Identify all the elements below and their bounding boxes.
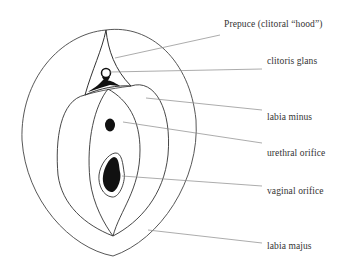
labia-minus-right	[113, 85, 169, 236]
labia-majus-outline	[22, 29, 196, 256]
urethral-orifice-shape	[105, 119, 115, 132]
vulva-anatomy-drawing	[0, 0, 354, 272]
label-prepuce: Prepuce (clitoral “hood”)	[224, 19, 323, 29]
vaginal-orifice-shape	[103, 157, 121, 192]
label-vaginal-orifice: vaginal orifice	[267, 186, 324, 196]
label-labia-minus: labia minus	[267, 112, 312, 122]
label-clitoris-glans: clitoris glans	[267, 56, 317, 66]
label-labia-majus: labia majus	[267, 241, 312, 251]
label-urethral-orifice: urethral orifice	[267, 148, 325, 158]
leader-lines	[110, 35, 262, 243]
clitoris-glans-shape	[102, 69, 111, 78]
labia-minus-left	[57, 95, 113, 236]
